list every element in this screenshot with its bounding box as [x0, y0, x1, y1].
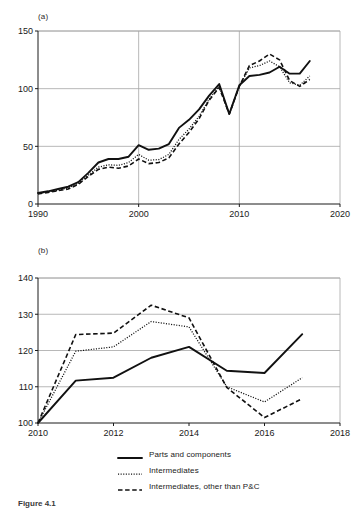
legend-label: Intermediates, other than P&C — [149, 482, 260, 491]
chart-panel-a: 0501001501990200020102020 — [0, 0, 358, 228]
legend-label: Parts and components — [149, 450, 231, 459]
chart-panel-b: 10011012013014020102012201420162018 — [0, 245, 358, 440]
legend-swatch-dashed — [117, 481, 143, 491]
legend-item: Intermediates, other than P&C — [0, 478, 358, 494]
y-tick-label: 130 — [18, 310, 33, 320]
x-tick-label: 2010 — [28, 428, 48, 438]
x-tick-label: 2010 — [229, 209, 249, 219]
figure-caption: Figure 4.1 — [18, 499, 56, 508]
x-tick-label: 2012 — [103, 428, 123, 438]
y-tick-label: 100 — [18, 418, 33, 428]
y-tick-label: 50 — [23, 142, 33, 152]
y-tick-label: 0 — [28, 199, 33, 209]
series-line-solid — [38, 334, 302, 423]
y-tick-label: 100 — [18, 84, 33, 94]
x-tick-label: 1990 — [28, 209, 48, 219]
series-line-dashed — [38, 305, 302, 423]
y-tick-label: 120 — [18, 346, 33, 356]
panel-a-plot: 0501001501990200020102020 — [0, 0, 358, 228]
series-line-dotted — [38, 61, 310, 194]
y-tick-label: 140 — [18, 273, 33, 283]
x-tick-label: 2000 — [129, 209, 149, 219]
x-tick-label: 2016 — [254, 428, 274, 438]
series-line-dashed — [38, 54, 310, 194]
legend-label: Intermediates — [149, 466, 199, 475]
legend-swatch-dotted — [117, 465, 143, 475]
y-tick-label: 150 — [18, 26, 33, 36]
series-line-solid — [38, 61, 310, 193]
panel-b-plot: 10011012013014020102012201420162018 — [0, 245, 358, 440]
legend-item: Intermediates — [0, 462, 358, 478]
x-tick-label: 2018 — [330, 428, 350, 438]
legend-swatch-solid — [117, 449, 143, 459]
legend-item: Parts and components — [0, 446, 358, 462]
x-tick-label: 2020 — [330, 209, 350, 219]
x-tick-label: 2014 — [179, 428, 199, 438]
y-tick-label: 110 — [19, 382, 33, 392]
chart-legend: Parts and componentsIntermediatesInterme… — [0, 446, 358, 494]
